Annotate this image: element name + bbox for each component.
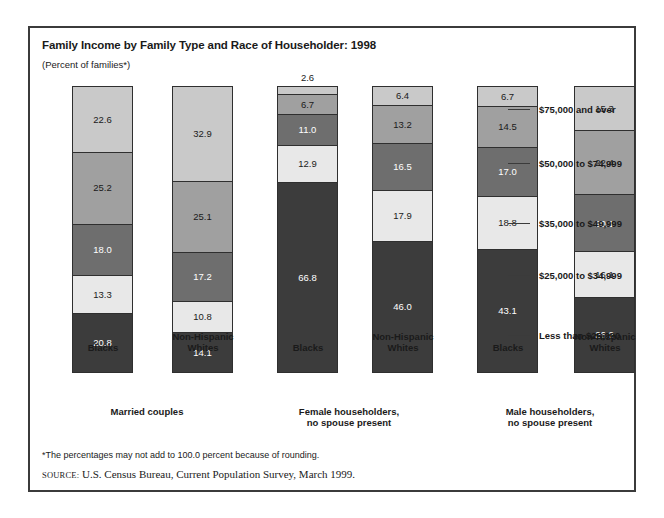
legend-label: $50,000 to $74,999 [539, 158, 622, 169]
chart-footnote: *The percentages may not add to 100.0 pe… [42, 450, 319, 460]
legend-item: Less than $25,000 [508, 330, 620, 342]
chart-subtitle: (Percent of families*) [42, 59, 130, 70]
legend-item: $35,000 to $49,999 [508, 218, 622, 230]
source-text: U.S. Census Bureau, Current Population S… [82, 468, 355, 480]
legend-label: Less than $25,000 [539, 330, 620, 341]
legend-label: $75,000 and over [539, 104, 616, 115]
legend-label: $25,000 to $34,999 [539, 270, 622, 281]
legend-label: $35,000 to $49,999 [539, 218, 622, 229]
figure-frame: Family Income by Family Type and Race of… [28, 26, 636, 492]
chart-legend: $75,000 and over$50,000 to $74,999$35,00… [42, 88, 626, 433]
chart-source: source: U.S. Census Bureau, Current Popu… [42, 468, 355, 480]
legend-item: $50,000 to $74,999 [508, 157, 622, 169]
legend-item: $75,000 and over [508, 104, 616, 116]
legend-leader-line [508, 223, 530, 224]
bar-segment-value: 2.6 [278, 73, 337, 83]
page-title: Family Income by Family Type and Race of… [42, 39, 376, 51]
legend-leader-line [508, 275, 530, 276]
legend-leader-line [508, 335, 530, 336]
plot-area: 22.625.218.013.320.8Blacks32.925.117.210… [42, 88, 626, 433]
legend-leader-line [508, 109, 530, 110]
source-word: source: [42, 470, 79, 480]
legend-item: $25,000 to $34,999 [508, 269, 622, 281]
legend-leader-line [508, 163, 530, 164]
